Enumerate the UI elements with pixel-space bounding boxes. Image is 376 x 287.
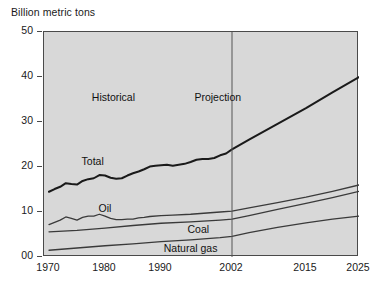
y-axis-title: Billion metric tons [11,6,95,18]
x-tick-label: 1980 [92,262,115,273]
annotation-oil: Oil [99,203,112,214]
annotation-total: Total [82,156,104,167]
x-tick-label: 2025 [346,262,369,273]
y-tick-mark [37,76,42,77]
y-tick-label: 30 [11,115,33,126]
y-tick-label: 20 [11,160,33,171]
y-tick-label: 10 [11,205,33,216]
x-tick-label: 1990 [148,262,171,273]
annotation-coal: Coal [187,224,209,235]
annotation-natural-gas: Natural gas [164,243,218,254]
x-tick-label: 2002 [219,262,242,273]
y-tick-label: 00 [11,250,33,261]
y-tick-mark [37,256,42,257]
y-tick-label: 50 [11,25,33,36]
series-line-oil [49,185,359,225]
y-tick-label: 40 [11,70,33,81]
y-tick-mark [37,211,42,212]
annotation-historical: Historical [92,92,135,103]
annotation-projection: Projection [194,92,241,103]
chart-figure: Billion metric tons 001020304050 1970198… [0,0,376,287]
x-tick-label: 2015 [293,262,316,273]
y-tick-mark [37,121,42,122]
x-tick-label: 1970 [36,262,59,273]
plot-area: HistoricalProjectionTotalOilCoalNatural … [43,31,358,256]
y-tick-mark [37,166,42,167]
y-tick-mark [37,31,42,32]
